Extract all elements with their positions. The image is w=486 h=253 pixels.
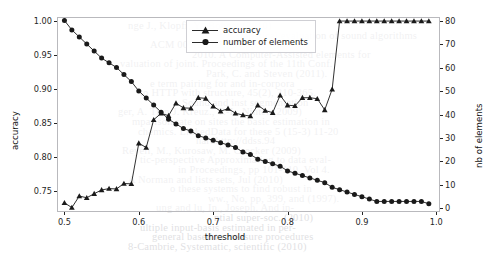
legend-label-number-of-elements: number of elements [223,37,308,47]
y2-tick-label: 30 [445,133,455,143]
tick-mark [64,212,65,215]
tick-mark [54,89,57,90]
x-tick-label: 0.6 [132,217,145,227]
x-tick-label: 1.0 [430,217,443,227]
y2-tick-label: 70 [445,39,455,49]
x-axis-title: threshold [205,232,245,242]
y2-tick-label: 40 [445,110,455,120]
tick-mark [54,157,57,158]
tick-mark [440,91,443,92]
tick-mark [440,208,443,209]
tick-mark [440,68,443,69]
y2-tick-label: 0 [445,203,450,213]
chart-legend: accuracy number of elements [186,20,316,53]
x-tick-label: 0.9 [355,217,368,227]
chart-figure: 0.50.60.70.80.91.00.750.800.850.900.951.… [0,0,486,253]
y2-axis-title: nb of elements [474,103,484,168]
tick-mark [440,138,443,139]
y-tick-label: 0.95 [22,50,52,60]
y2-tick-label: 20 [445,156,455,166]
y-tick-label: 0.90 [22,84,52,94]
tick-mark [54,191,57,192]
tick-mark [440,185,443,186]
tick-mark [440,44,443,45]
legend-item-accuracy: accuracy [192,24,308,36]
legend-marker-triangle-icon [192,25,218,35]
y-tick-label: 1.00 [22,16,52,26]
tick-mark [288,212,289,215]
tick-mark [54,123,57,124]
x-tick-label: 0.5 [58,217,71,227]
tick-mark [440,115,443,116]
tick-mark [362,212,363,215]
legend-marker-circle-icon [192,37,218,47]
legend-item-number-of-elements: number of elements [192,36,308,48]
y2-tick-label: 10 [445,180,455,190]
tick-mark [213,212,214,215]
tick-mark [54,55,57,56]
tick-mark [440,21,443,22]
y2-tick-label: 60 [445,63,455,73]
y2-tick-label: 80 [445,16,455,26]
legend-label-accuracy: accuracy [223,25,261,35]
tick-mark [440,161,443,162]
tick-mark [54,21,57,22]
x-tick-label: 0.8 [281,217,294,227]
x-tick-label: 0.7 [207,217,220,227]
tick-mark [139,212,140,215]
y-tick-label: 0.75 [22,186,52,196]
tick-mark [436,212,437,215]
y2-tick-label: 50 [445,86,455,96]
y-axis-title: accuracy [10,111,20,150]
y-tick-label: 0.80 [22,152,52,162]
y-tick-label: 0.85 [22,118,52,128]
